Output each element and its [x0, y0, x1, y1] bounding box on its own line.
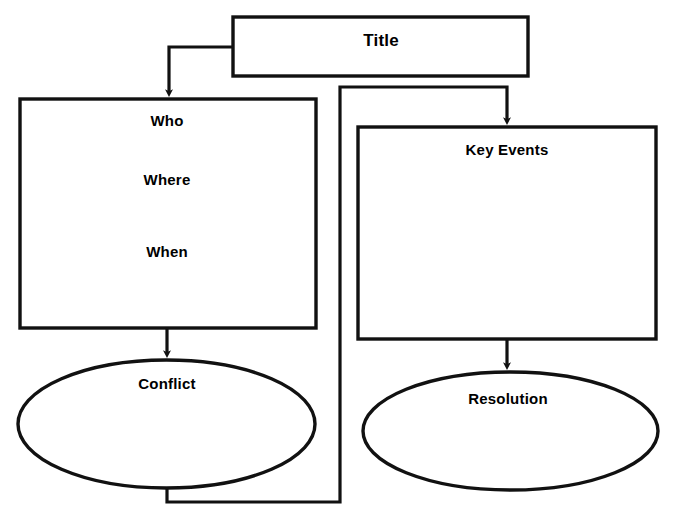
- key-events-box: [358, 127, 656, 339]
- diagram-canvas-svg: [0, 0, 673, 522]
- connector-title-to-setting: [169, 47, 233, 93]
- story-map-diagram: Title Who Where When Key Events Conflict…: [0, 0, 673, 522]
- title-box: [233, 17, 528, 76]
- conflict-ellipse: [18, 360, 315, 488]
- setting-box: [20, 99, 316, 328]
- resolution-ellipse: [363, 372, 658, 490]
